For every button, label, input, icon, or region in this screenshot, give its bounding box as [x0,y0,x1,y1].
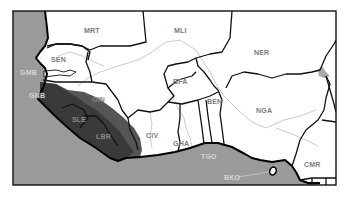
label-sen: SEN [51,56,66,63]
label-gnb: GNB [29,92,45,99]
label-nga: NGA [256,107,272,114]
label-lbr: LBR [96,133,111,140]
label-ner: NER [254,49,269,56]
label-cmr: CMR [304,161,321,168]
map-container: MRT MLI NER SEN GMB GNB GIN SLE LBR BFA … [0,0,348,198]
label-mli: MLI [174,27,187,34]
label-gin: GIN [92,96,105,103]
label-gha: GHA [173,140,189,147]
label-civ: CIV [146,132,158,139]
label-tgo: TGO [201,153,217,160]
label-gmb: GMB [20,69,37,76]
label-mrt: MRT [84,27,100,34]
label-bko: BKO [224,174,241,181]
label-bfa: BFA [173,78,188,85]
west-africa-map: MRT MLI NER SEN GMB GNB GIN SLE LBR BFA … [0,0,348,198]
label-sle: SLE [72,116,86,123]
label-ben: BEN [207,98,222,105]
